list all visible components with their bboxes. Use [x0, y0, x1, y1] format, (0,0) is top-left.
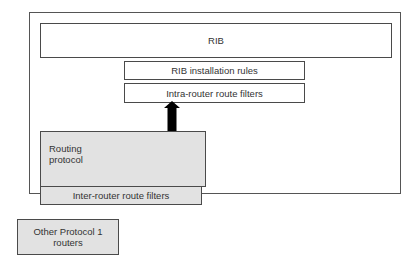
- routing-protocol-box: Routing protocol: [40, 131, 206, 187]
- intra-router-route-filters-box: Intra-router route filters: [124, 83, 305, 103]
- other-protocol-routers-box: Other Protocol 1 routers: [17, 219, 119, 255]
- rib-installation-rules-box: RIB installation rules: [124, 61, 305, 80]
- other-protocol-routers-label: Other Protocol 1 routers: [33, 226, 102, 248]
- other-protocol-routers-label-line2: routers: [33, 237, 102, 248]
- rib-installation-rules-label: RIB installation rules: [171, 65, 258, 76]
- routing-protocol-label-line1: Routing: [49, 143, 83, 154]
- inter-router-route-filters-label: Inter-router route filters: [73, 190, 170, 201]
- rib-box: RIB: [40, 23, 392, 58]
- intra-router-route-filters-label: Intra-router route filters: [166, 88, 263, 99]
- other-protocol-routers-label-line1: Other Protocol 1: [33, 226, 102, 237]
- up-arrow-icon: [163, 101, 181, 132]
- rib-label: RIB: [208, 35, 224, 46]
- routing-protocol-label-line2: protocol: [49, 154, 83, 165]
- routing-protocol-label: Routing protocol: [49, 143, 83, 165]
- inter-router-route-filters-box: Inter-router route filters: [40, 186, 202, 205]
